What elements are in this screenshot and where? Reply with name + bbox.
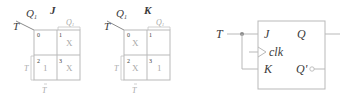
kmap-k-cell-0-index: 0 [127,32,130,38]
ff-pin-k: K [263,62,273,76]
ff-inverter-bubble-icon [310,67,314,71]
kmap-j-bottom-label: T [42,86,47,95]
ff-clock-triangle-icon [258,47,266,57]
kmap-k-row-var: T [104,20,111,32]
kmap-j-left-bracket-label: T [24,64,29,73]
diagram-canvas: T Q1 J Q1 T T 0 1 X 2 1 3 X T Q1 K Q1 T [0,0,343,103]
kmap-j-cell-1-value: X [66,38,73,48]
kmap-k-cell-2-index: 2 [127,58,130,64]
kmap-k-cell-3-index: 3 [149,58,152,64]
kmap-k-left-bracket-label: T [114,64,119,73]
kmap-j-top-bracket-label: Q1 [66,18,74,27]
kmap-j-col-var: Q1 [26,7,37,20]
kmap-k-cell-1-index: 1 [149,32,152,38]
kmap-j-cell-2-value: 1 [43,63,48,73]
kmap-k-bottom-label: T [132,86,137,95]
kmap-k-top-bracket-label: Q1 [156,18,164,27]
kmap-j-cell-3-value: X [66,63,73,73]
kmap-k-cell-3-value: 1 [157,63,162,73]
kmap-j-cell-1-index: 1 [59,32,62,38]
kmap-j-cell-3-index: 3 [59,58,62,64]
ff-input-label: T [216,27,224,41]
kmap-k: T Q1 K Q1 T T 0 X 1 2 X 3 1 [104,4,170,95]
kmap-k-cell-0-value: X [132,38,139,48]
ff-pin-clk: clk [269,45,284,59]
kmap-j-title: J [49,4,56,16]
ff-out-qbar: Q' [296,62,308,76]
kmap-k-title: K [143,4,152,16]
kmap-j-cell-0-index: 0 [37,32,40,38]
kmap-k-cell-2-value: X [132,63,139,73]
kmap-j-row-var: T [13,20,20,32]
kmap-k-col-var: Q1 [116,7,127,20]
kmap-j: T Q1 J Q1 T T 0 1 X 2 1 3 X [13,4,80,95]
ff-out-q: Q [297,27,306,41]
kmap-j-cell-2-index: 2 [37,58,40,64]
jk-flipflop-as-t: T J clk K Q Q' [216,21,340,89]
ff-pin-j: J [264,27,270,41]
